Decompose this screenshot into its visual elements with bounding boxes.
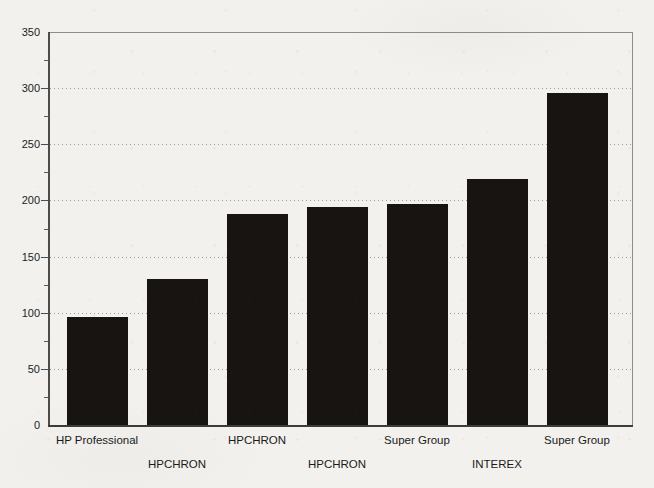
x-axis-label: Super Group [512,434,642,447]
y-axis-major-tick [41,88,49,89]
x-axis-label: Super Group [352,434,482,447]
gridline-200 [50,200,632,201]
x-axis-label: HPCHRON [192,434,322,447]
x-axis-label: HP Professional [32,434,162,447]
gridline-300 [50,88,632,89]
y-axis-minor-tick [44,172,49,173]
y-axis-major-tick [41,200,49,201]
y-axis-tick-label: 150 [0,252,40,263]
y-axis-minor-tick [44,229,49,230]
y-axis-major-tick [41,313,49,314]
y-axis-tick-label: 300 [0,83,40,94]
y-axis-minor-tick [44,285,49,286]
y-axis-tick-label: 0 [0,420,40,431]
bar-chart: 050100150200250300350HP ProfessionalHPCH… [0,0,654,488]
y-axis-tick-label: 100 [0,308,40,319]
bar-2-hpchron [147,279,208,425]
x-axis-label: HPCHRON [272,458,402,471]
x-axis-label: INTEREX [432,458,562,471]
bar-1-hp-professional [67,317,128,425]
bar-3-hpchron [227,214,288,425]
y-axis-minor-tick [44,60,49,61]
x-axis-label: HPCHRON [112,458,242,471]
bar-5-super-group [387,204,448,425]
y-axis-tick-label: 250 [0,139,40,150]
bar-4-hpchron [307,207,368,425]
plot-frame-top [50,32,633,33]
y-axis-major-tick [41,369,49,370]
y-axis-major-tick [41,257,49,258]
x-axis-line [48,425,633,427]
y-axis-minor-tick [44,116,49,117]
y-axis-minor-tick [44,341,49,342]
bar-7-super-group [547,93,608,425]
y-axis-major-tick [41,144,49,145]
y-axis-tick-label: 50 [0,364,40,375]
y-axis-tick-label: 200 [0,195,40,206]
bar-6-interex [467,179,528,425]
plot-frame-right [632,32,633,427]
y-axis-minor-tick [44,397,49,398]
gridline-250 [50,144,632,145]
y-axis-tick-label: 350 [0,27,40,38]
